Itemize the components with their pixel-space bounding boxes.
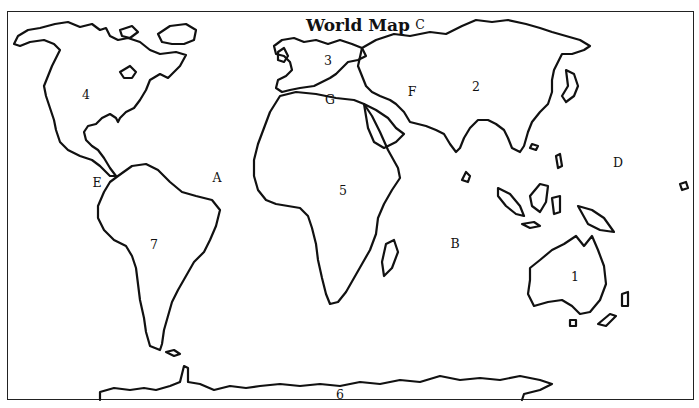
hudson-bay-outline (120, 66, 136, 78)
continent-label-4: 4 (82, 87, 90, 102)
java-outline (522, 222, 540, 228)
feature-label-f: F (408, 84, 417, 99)
ocean-label-b: B (450, 236, 459, 251)
tasmania-outline (570, 320, 576, 326)
ocean-label-a: A (212, 170, 221, 185)
continent-label-5: 5 (339, 183, 347, 198)
madagascar-outline (382, 240, 398, 276)
antarctica-outline (100, 366, 552, 400)
feature-label-g: G (325, 92, 335, 107)
world-map-outline (0, 0, 699, 408)
continent-label-1: 1 (571, 269, 579, 284)
africa-outline (254, 92, 400, 304)
new-zealand-outline (598, 292, 628, 326)
continent-label-6: 6 (336, 387, 344, 402)
japan-outline (562, 70, 578, 102)
borneo-outline (530, 184, 548, 212)
taiwan-outline (530, 144, 538, 150)
arctic-island-outline (120, 26, 138, 38)
greenland-outline (158, 24, 196, 44)
continent-label-3: 3 (324, 53, 332, 68)
continent-label-2: 2 (472, 79, 480, 94)
sri-lanka-outline (462, 172, 470, 182)
sulawesi-outline (552, 196, 560, 214)
sumatra-outline (498, 188, 524, 216)
australia-outline (528, 236, 606, 314)
new-guinea-outline (578, 206, 614, 232)
europe-outline (274, 38, 366, 92)
continent-label-7: 7 (150, 237, 158, 252)
philippines-outline (556, 154, 562, 168)
map-title: World Map (306, 15, 410, 35)
ocean-label-d: D (613, 155, 623, 170)
pacific-island-outline (680, 182, 688, 190)
south-america-outline (98, 164, 220, 350)
feature-label-e: E (92, 175, 101, 190)
north-america-outline (14, 22, 186, 176)
ocean-label-c: C (415, 17, 425, 32)
tierra-del-fuego-outline (166, 350, 180, 356)
